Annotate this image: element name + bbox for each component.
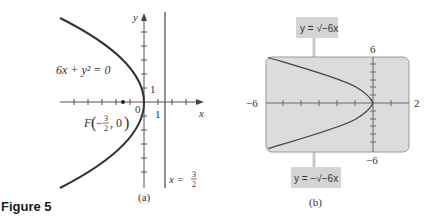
svg-text:3: 3 bbox=[192, 170, 196, 179]
svg-text:, 0: , 0 bbox=[110, 116, 122, 130]
ymin-label: −6 bbox=[366, 154, 378, 166]
figure-number-label: Figure 5 bbox=[1, 199, 52, 214]
x-axis-arrow-icon bbox=[196, 99, 204, 105]
focus-label: F ( − 3 2 , 0 ) bbox=[83, 114, 129, 133]
xmax-label: 2 bbox=[414, 97, 420, 109]
equation-label: 6x + y² = 0 bbox=[56, 63, 110, 77]
figure-canvas: y x 0 1 1 6x + y² = 0 F ( − 3 2 , 0 ) x … bbox=[0, 0, 437, 218]
directrix-label: x = 3 2 bbox=[168, 170, 197, 189]
svg-text:3: 3 bbox=[104, 114, 108, 123]
focus-point bbox=[121, 100, 125, 104]
origin-label: 0 bbox=[135, 103, 141, 115]
svg-text:x =: x = bbox=[168, 173, 184, 185]
panel-a: y x 0 1 1 6x + y² = 0 F ( − 3 2 , 0 ) x … bbox=[56, 11, 204, 204]
x-axis-label: x bbox=[198, 107, 204, 119]
y-tick-label-1: 1 bbox=[150, 83, 156, 95]
svg-text:−: − bbox=[96, 116, 103, 130]
y-axis-label: y bbox=[132, 11, 138, 23]
lower-curve-label: y = −√−6x bbox=[294, 173, 338, 184]
y-axis-arrow-icon bbox=[141, 13, 147, 21]
svg-text:): ) bbox=[124, 114, 129, 132]
panel-b-caption: (b) bbox=[309, 196, 322, 209]
panel-a-caption: (a) bbox=[138, 191, 151, 204]
ymax-label: 6 bbox=[370, 43, 376, 55]
panel-b: −6 2 6 −6 y = √−6x y = −√−6x (b) bbox=[246, 17, 420, 209]
x-tick-label-1: 1 bbox=[155, 108, 161, 120]
xmin-label: −6 bbox=[246, 97, 258, 109]
svg-text:2: 2 bbox=[104, 124, 108, 133]
upper-curve-label: y = √−6x bbox=[300, 23, 338, 34]
svg-text:2: 2 bbox=[192, 180, 196, 189]
